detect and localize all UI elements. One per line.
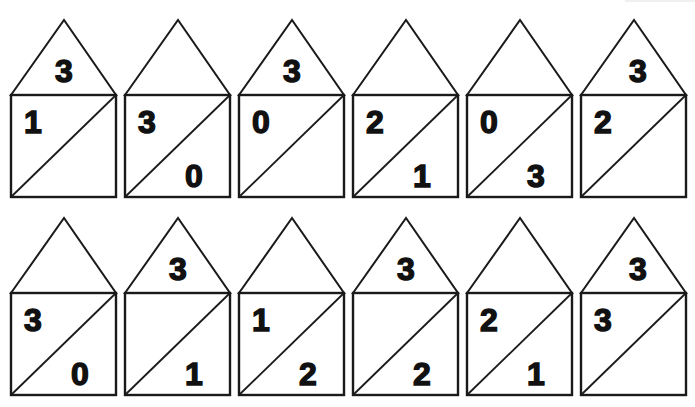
number-houses-worksheet: 313030210332303112322133 <box>0 0 695 407</box>
number-house: 30 <box>125 20 233 200</box>
number-house: 21 <box>467 218 575 398</box>
number-house: 21 <box>353 20 461 200</box>
bottom-right-number: 1 <box>523 358 549 390</box>
roof-number: 3 <box>165 253 191 285</box>
top-left-number: 2 <box>476 304 502 336</box>
bottom-right-number: 0 <box>67 358 93 390</box>
top-left-number: 2 <box>590 106 616 138</box>
number-house: 03 <box>467 20 575 200</box>
bottom-right-number: 0 <box>181 160 207 192</box>
number-house: 32 <box>353 218 461 398</box>
bottom-right-number: 2 <box>295 358 321 390</box>
top-left-number: 1 <box>248 304 274 336</box>
roof-number: 3 <box>625 55 651 87</box>
bottom-right-number: 2 <box>409 358 435 390</box>
number-house: 31 <box>11 20 119 200</box>
roof-number: 3 <box>625 253 651 285</box>
number-house: 30 <box>239 20 347 200</box>
top-left-number: 3 <box>134 106 160 138</box>
top-left-number: 1 <box>20 106 46 138</box>
bottom-right-number: 3 <box>523 160 549 192</box>
number-house: 30 <box>11 218 119 398</box>
number-house: 32 <box>581 20 689 200</box>
top-left-number: 0 <box>248 106 274 138</box>
bottom-right-number: 1 <box>409 160 435 192</box>
number-house: 12 <box>239 218 347 398</box>
house-outline-icon <box>353 218 459 398</box>
house-outline-icon <box>125 218 231 398</box>
roof-number: 3 <box>393 253 419 285</box>
number-house: 31 <box>125 218 233 398</box>
roof-number: 3 <box>51 55 77 87</box>
roof-number: 3 <box>279 55 305 87</box>
top-left-number: 3 <box>590 304 616 336</box>
top-left-number: 0 <box>476 106 502 138</box>
bottom-right-number: 1 <box>181 358 207 390</box>
scan-artifact-line <box>625 0 695 2</box>
number-house: 33 <box>581 218 689 398</box>
top-left-number: 3 <box>20 304 46 336</box>
top-left-number: 2 <box>362 106 388 138</box>
